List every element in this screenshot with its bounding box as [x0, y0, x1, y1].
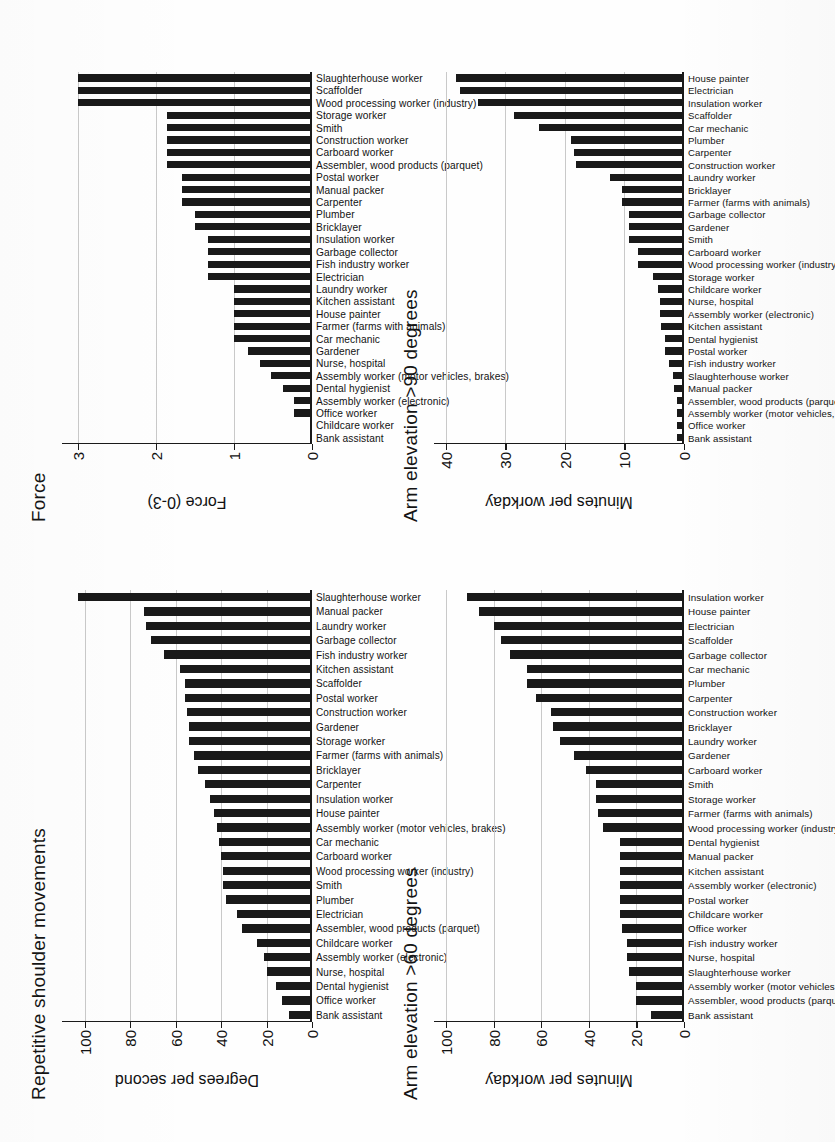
y-axis-tick [684, 444, 685, 450]
bar-slot [62, 878, 312, 892]
bar-slot [434, 382, 684, 394]
bar [234, 298, 312, 305]
y-axis-tick [312, 1022, 313, 1028]
bar-slot [62, 964, 312, 978]
bar-slot [434, 849, 684, 863]
bar [636, 996, 684, 1004]
y-axis-tick-label: 2 [147, 452, 164, 460]
bar [571, 136, 684, 143]
bar-slot [62, 950, 312, 964]
bar [214, 809, 312, 817]
bar-slot [62, 72, 312, 84]
plot-area-repetitive: 020406080100Bank assistantOffice workerD… [62, 590, 312, 1022]
bar [677, 434, 684, 441]
bar [146, 622, 312, 630]
bar-slot [434, 196, 684, 208]
bar-slot [62, 820, 312, 834]
bar-slot [434, 208, 684, 220]
bar [294, 397, 312, 404]
bar [217, 823, 312, 831]
bar-slot [434, 719, 684, 733]
bar-slot [62, 921, 312, 935]
bar-slot [62, 283, 312, 295]
bar-slot [434, 691, 684, 705]
bar [167, 161, 312, 168]
bar-slot [62, 864, 312, 878]
bar-slot [62, 332, 312, 344]
bar [234, 335, 312, 342]
bar-slot [434, 936, 684, 950]
bar-slot [434, 993, 684, 1007]
bar [576, 161, 684, 168]
bar [665, 335, 684, 342]
bar-series [434, 590, 684, 1022]
bar-slot [434, 647, 684, 661]
bar [527, 665, 684, 673]
bar-slot [434, 84, 684, 96]
bar-slot [434, 394, 684, 406]
bar-slot [434, 109, 684, 121]
bar-slot [62, 604, 312, 618]
bar-slot [434, 419, 684, 431]
y-axis-tick [234, 444, 235, 450]
bar [283, 385, 312, 392]
bar-slot [434, 97, 684, 109]
y-axis-title-arm60: Minutes per workday [485, 1071, 633, 1089]
bar-slot [434, 283, 684, 295]
y-axis-tick-label: 80 [122, 1030, 139, 1047]
bar [638, 248, 684, 255]
bar [636, 982, 684, 990]
bar [182, 198, 312, 205]
bar [622, 198, 684, 205]
y-axis-title-repetitive: Degrees per second [115, 1071, 259, 1089]
chart-title-repetitive: Repetitive shoulder movements [28, 828, 50, 1100]
y-axis-tick-label: 0 [676, 452, 693, 460]
bar-slot [62, 370, 312, 382]
plot-area-arm60: 020406080100Bank assistantAssembler, woo… [434, 590, 684, 1022]
bar [651, 1011, 684, 1019]
bar [620, 881, 684, 889]
bar-slot [62, 907, 312, 921]
bar-slot [434, 171, 684, 183]
chart-title-force: Force [28, 472, 50, 522]
bar-slot [62, 777, 312, 791]
bar [237, 910, 312, 918]
bar [219, 838, 312, 846]
bar-slot [62, 662, 312, 676]
bar [620, 867, 684, 875]
bar-slot [62, 590, 312, 604]
bar [629, 211, 684, 218]
bar [629, 967, 684, 975]
bar-slot [62, 1008, 312, 1022]
bar-slot [62, 221, 312, 233]
bar [185, 679, 312, 687]
y-axis-tick-label: 20 [628, 1030, 645, 1047]
y-axis-tick [130, 1022, 131, 1028]
bar [276, 982, 312, 990]
bar [629, 236, 684, 243]
bar [164, 650, 312, 658]
y-axis-tick-label: 100 [437, 1030, 454, 1055]
bar [467, 593, 684, 601]
bar [629, 223, 684, 230]
bar-slot [62, 270, 312, 282]
chart-title-arm90: Arm elevation >90 degrees [400, 289, 422, 522]
bar-slot [434, 979, 684, 993]
bar-slot [434, 221, 684, 233]
bar [494, 622, 684, 630]
bar [574, 149, 684, 156]
bar [267, 967, 312, 975]
bar [210, 795, 312, 803]
bar [627, 953, 684, 961]
y-axis-tick [85, 1022, 86, 1028]
bar-slot [62, 719, 312, 733]
y-axis-tick [446, 444, 447, 450]
bar-slot [434, 72, 684, 84]
bar [620, 910, 684, 918]
y-axis-tick [505, 444, 506, 450]
bar [78, 87, 312, 94]
y-axis-tick [176, 1022, 177, 1028]
bar-slot [62, 748, 312, 762]
bar-slot [62, 691, 312, 705]
bar [167, 149, 312, 156]
